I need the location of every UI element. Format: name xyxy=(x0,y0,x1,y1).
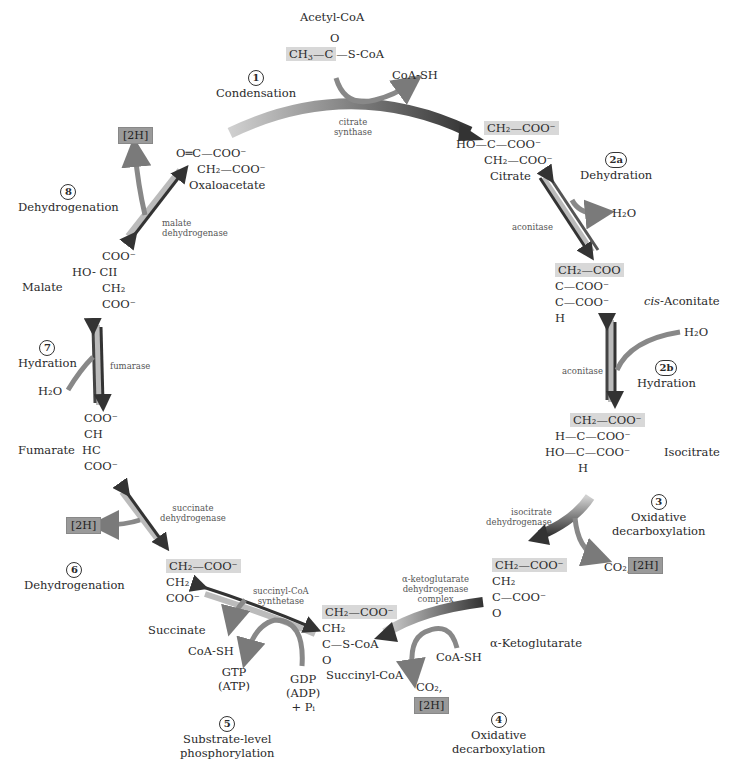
enzyme-alpha-kg-dehydrogenase: α-ketoglutaratedehydrogenasecomplex xyxy=(402,574,469,604)
enzyme-aconitase-2a: aconitase xyxy=(512,222,553,232)
coa-sh-step1: CoA-SH xyxy=(392,68,438,82)
h2o-step7: H₂O xyxy=(38,384,62,398)
enzyme-fumarase: fumarase xyxy=(110,361,150,371)
isocitrate-label: Isocitrate xyxy=(664,445,720,459)
h2-step3: [2H] xyxy=(628,558,663,573)
step-2b-label: 2b Hydration xyxy=(637,360,696,390)
fumarate-label: Fumarate xyxy=(18,443,75,457)
step-6-label: 6 Dehydrogenation xyxy=(24,562,125,592)
succinyl-coa-label: Succinyl-CoA xyxy=(326,668,403,682)
cis-aconitate-structure: CH₂—COO C—COO⁻ C—COO⁻ H xyxy=(555,262,624,326)
malate-structure: COO⁻ HO- CII CH₂ COO⁻ xyxy=(72,248,117,312)
h2-step4: [2H] xyxy=(414,698,449,713)
h2-step8: [2H] xyxy=(118,128,153,143)
cis-aconitate-label: cis-Aconitate xyxy=(644,294,720,308)
malate-label: Malate xyxy=(22,280,63,294)
citrate-structure: CH₂—COO⁻ HO—C—COO⁻ CH₂—COO⁻ Citrate xyxy=(456,120,541,184)
enzyme-aconitase-2b: aconitase xyxy=(562,366,603,376)
step-5-label: 5 Substrate-level phosphorylation xyxy=(180,716,274,760)
enzyme-succinate-dehydrogenase: succinatedehydrogenase xyxy=(160,503,226,523)
alpha-ketoglutarate-label: α-Ketoglutarate xyxy=(490,636,582,650)
acetyl-coa-label: Acetyl-CoA xyxy=(300,10,364,24)
step-8-label: 8 Dehydrogenation xyxy=(18,184,119,214)
fumarate-structure: COO⁻ CH HC COO⁻ xyxy=(84,410,118,474)
enzyme-malate-dehydrogenase: malatedehydrogenase xyxy=(162,218,228,238)
succinyl-coa-structure: CH₂—COO⁻ CH₂ C—S-CoA O xyxy=(322,604,397,668)
succinate-structure: CH₂—COO⁻ CH₂ COO⁻ xyxy=(166,558,241,606)
step-3-label: 3 Oxidative decarboxylation xyxy=(612,494,705,538)
step-1-label: 1 Condensation xyxy=(216,70,296,100)
oxaloacetate-label: Oxaloacetate xyxy=(189,177,265,193)
h2-step6: [2H] xyxy=(66,518,101,533)
h2o-step2b: H₂O xyxy=(684,325,708,339)
step-2a-label: 2a Dehydration xyxy=(580,152,652,182)
citrate-label: Citrate xyxy=(490,168,575,184)
h2o-step2a: H₂O xyxy=(612,206,636,220)
gdp-adp-pi: GDP(ADP)+ Pᵢ xyxy=(286,672,320,714)
oxaloacetate-structure: O═C—COO⁻ CH₂—COO⁻ Oxaloacetate xyxy=(176,145,252,193)
coa-sh-step5: CoA-SH xyxy=(188,644,234,658)
co2-step3: CO₂, xyxy=(604,560,631,574)
coa-sh-step4: CoA-SH xyxy=(436,650,482,664)
enzyme-succinyl-coa-synthetase: succinyl-CoAsynthetase xyxy=(253,586,309,606)
succinate-label: Succinate xyxy=(148,623,206,637)
enzyme-isocitrate-dehydrogenase: isocitratedehydrogenase xyxy=(486,507,552,527)
gtp-atp: GTP(ATP) xyxy=(218,665,250,693)
step-7-label: 7 Hydration xyxy=(18,340,77,370)
alpha-ketoglutarate-structure: CH₂—COO⁻ CH₂ C—COO⁻ O xyxy=(492,557,567,621)
isocitrate-structure: CH₂—COO⁻ H—C—COO⁻ HO—C—COO⁻ H xyxy=(545,412,630,476)
co2-step4: CO₂, xyxy=(416,680,443,694)
enzyme-citrate-synthase: citratesynthase xyxy=(334,117,372,137)
step-4-label: 4 Oxidative decarboxylation xyxy=(452,712,545,756)
acetyl-coa-structure: O CH3—C—S-CoA xyxy=(286,30,384,66)
